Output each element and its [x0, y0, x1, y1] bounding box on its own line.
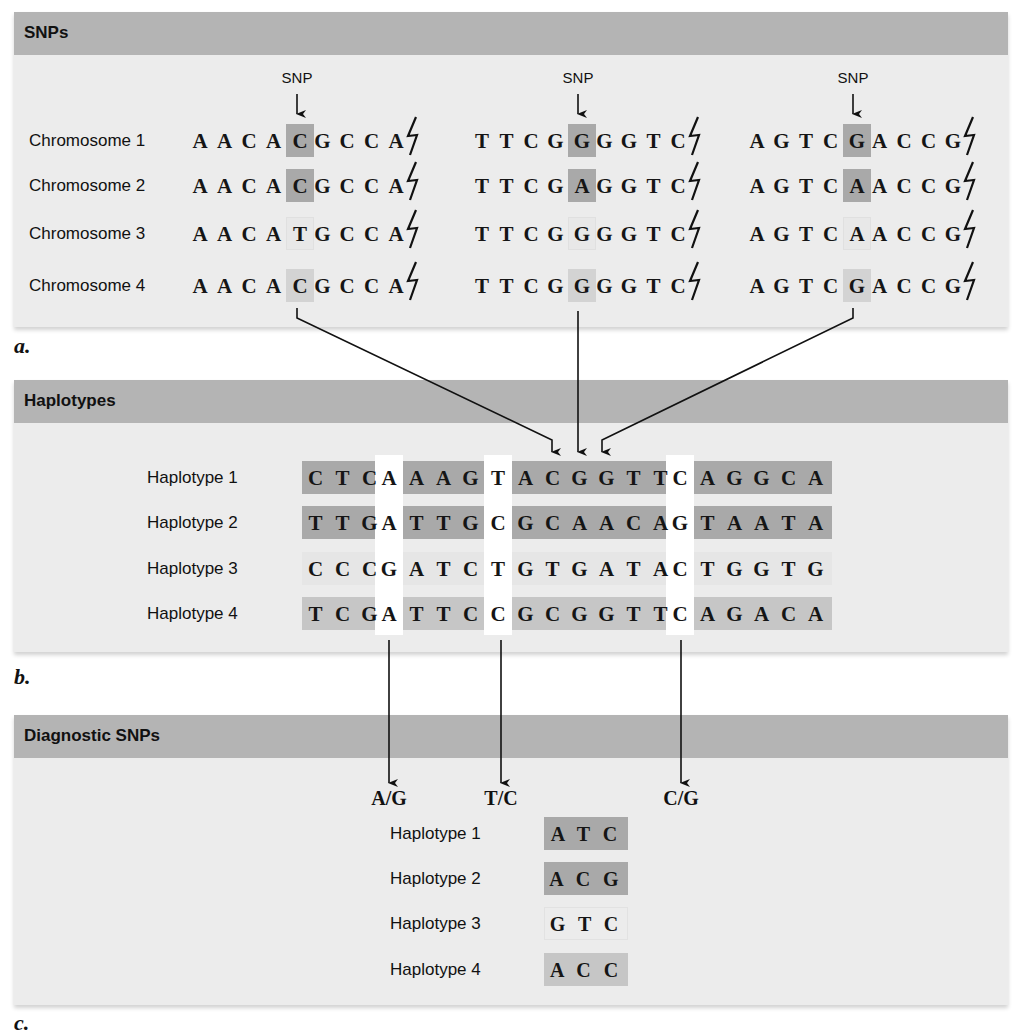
base-cell: C [892, 269, 916, 302]
base-cell: T [495, 169, 519, 202]
base-cell: C [360, 269, 384, 302]
base-cell: T [302, 506, 329, 539]
base-cell: G [617, 169, 641, 202]
base-cell: G [593, 124, 617, 157]
base-cell: C [819, 169, 843, 202]
base-cell: G [544, 269, 568, 302]
snp-base-cell: A [375, 506, 403, 539]
base-cell: A [262, 269, 286, 302]
base-cell: G [748, 552, 775, 585]
base-cell: T [794, 124, 818, 157]
haplotype-label: Haplotype 3 [147, 559, 238, 579]
base-cell: C [302, 552, 329, 585]
base-cell: A [721, 506, 748, 539]
allele-label: A/G [371, 787, 407, 810]
base-cell: C [457, 552, 484, 585]
base-cell: C [917, 269, 941, 302]
chromosome-label: Chromosome 3 [29, 224, 145, 244]
base-cell: C [237, 269, 261, 302]
chromosome-label: Chromosome 1 [29, 131, 145, 151]
base-cell: T [694, 552, 721, 585]
haplotype-label: Haplotype 4 [147, 604, 238, 624]
diagnostic-snp-box: A C G [544, 862, 628, 895]
base-cell: T [694, 506, 721, 539]
base-cell: C [917, 124, 941, 157]
base-cell: A [802, 506, 829, 539]
base-cell: T [775, 552, 802, 585]
base-cell: G [544, 169, 568, 202]
break-icon [405, 161, 421, 201]
base-cell: T [329, 461, 356, 494]
snp-marker-label: SNP [563, 69, 594, 86]
base-cell: C [335, 269, 359, 302]
base-cell: C [329, 552, 356, 585]
base-cell: C [819, 124, 843, 157]
base-cell: T [430, 597, 457, 630]
base-cell: C [360, 217, 384, 250]
chromosome-label: Chromosome 4 [29, 276, 145, 296]
base-cell: A [188, 169, 212, 202]
base-cell: T [794, 217, 818, 250]
snp-base-cell: T [484, 461, 512, 494]
base-cell: T [470, 169, 494, 202]
base-cell: A [430, 461, 457, 494]
base-cell: T [470, 217, 494, 250]
base-cell: G [721, 552, 748, 585]
snp-marker-label: SNP [838, 69, 869, 86]
base-cell: A [748, 597, 775, 630]
base-cell: G [512, 597, 539, 630]
base-cell: T [775, 506, 802, 539]
break-icon [405, 209, 421, 249]
base-cell: T [620, 597, 647, 630]
base-cell: G [617, 217, 641, 250]
base-cell: T [495, 124, 519, 157]
snp-base-cell: C [666, 461, 694, 494]
base-cell: G [512, 506, 539, 539]
base-cell: T [470, 124, 494, 157]
diagnostic-snp-box: A T C [544, 817, 628, 850]
break-icon [687, 116, 703, 156]
base-cell: A [213, 269, 237, 302]
base-cell: A [188, 124, 212, 157]
base-cell: G [721, 597, 748, 630]
haplotypes-panel-header: Haplotypes [14, 380, 1008, 423]
base-cell: T [642, 269, 666, 302]
snp-base-cell: T [484, 552, 512, 585]
base-cell: G [512, 552, 539, 585]
base-cell: G [311, 217, 335, 250]
allele-label: C/G [663, 787, 699, 810]
base-cell: C [519, 169, 543, 202]
break-icon [687, 261, 703, 301]
snp-base-cell: G [375, 552, 403, 585]
snp-base-cell: G [666, 506, 694, 539]
base-cell: T [329, 506, 356, 539]
base-cell: G [311, 169, 335, 202]
base-cell: G [770, 217, 794, 250]
base-cell: A [213, 124, 237, 157]
base-cell: C [892, 124, 916, 157]
break-icon [687, 209, 703, 249]
base-cell: T [642, 217, 666, 250]
base-cell: C [539, 597, 566, 630]
break-icon [962, 209, 978, 249]
base-cell: C [302, 461, 329, 494]
base-cell: C [329, 597, 356, 630]
base-cell: T [794, 269, 818, 302]
base-cell: T [620, 552, 647, 585]
base-cell: C [775, 461, 802, 494]
base-cell: A [593, 506, 620, 539]
snps-panel-title: SNPs [24, 23, 68, 43]
base-cell: A [745, 269, 769, 302]
break-icon [962, 116, 978, 156]
base-cell: C [237, 124, 261, 157]
base-cell: G [721, 461, 748, 494]
base-cell: A [868, 269, 892, 302]
base-cell: G [770, 169, 794, 202]
base-cell: A [188, 269, 212, 302]
base-cell: G [566, 552, 593, 585]
base-cell: C [917, 169, 941, 202]
base-cell: A [403, 552, 430, 585]
haplotypes-panel-title: Haplotypes [24, 391, 116, 411]
base-cell: G [544, 217, 568, 250]
diagnostic-haplotype-label: Haplotype 2 [390, 869, 481, 889]
